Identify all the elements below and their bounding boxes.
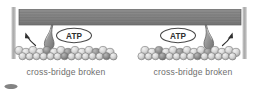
actin-thin-filament-right (138, 46, 240, 60)
atp-text-right: ATP (170, 32, 186, 41)
myosin-thick-filament (19, 10, 241, 26)
cross-bridge-left (44, 25, 54, 50)
arrow-left (25, 33, 36, 46)
caption-right: cross-bridge broken (134, 67, 252, 77)
actin-thin-filament-left (15, 46, 117, 60)
atp-text-left: ATP (66, 32, 82, 41)
arrow-right (223, 33, 234, 46)
z-line-right (243, 7, 247, 59)
edge-artifact-mark (5, 84, 18, 89)
atp-label-left: ATP (57, 28, 92, 42)
cross-bridge-right (204, 25, 214, 50)
muscle-contraction-diagram: ATP (0, 0, 258, 89)
caption-left: cross-bridge broken (8, 67, 124, 77)
atp-label-right: ATP (161, 28, 196, 42)
